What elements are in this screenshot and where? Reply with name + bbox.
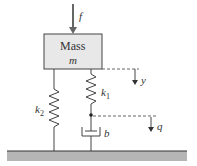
mass-spring-damper-diagram: f Mass m k1 k2 b y q [0, 0, 197, 166]
spring-k1-label: k1 [101, 87, 110, 101]
force-label: f [79, 11, 82, 22]
damper-b [82, 127, 100, 151]
spring-k1 [86, 69, 96, 131]
displacement-y-label: y [141, 75, 146, 86]
spring-k2-label: k2 [35, 104, 44, 118]
junction-node [89, 113, 93, 117]
displacement-q-label: q [157, 121, 163, 132]
mass-symbol: m [69, 55, 77, 66]
ground [7, 151, 187, 161]
spring-k2 [49, 69, 59, 151]
mass-label: Mass [60, 40, 85, 52]
damper-label: b [104, 128, 110, 139]
force-arrow [69, 4, 77, 34]
diagram-graphics [0, 0, 197, 166]
